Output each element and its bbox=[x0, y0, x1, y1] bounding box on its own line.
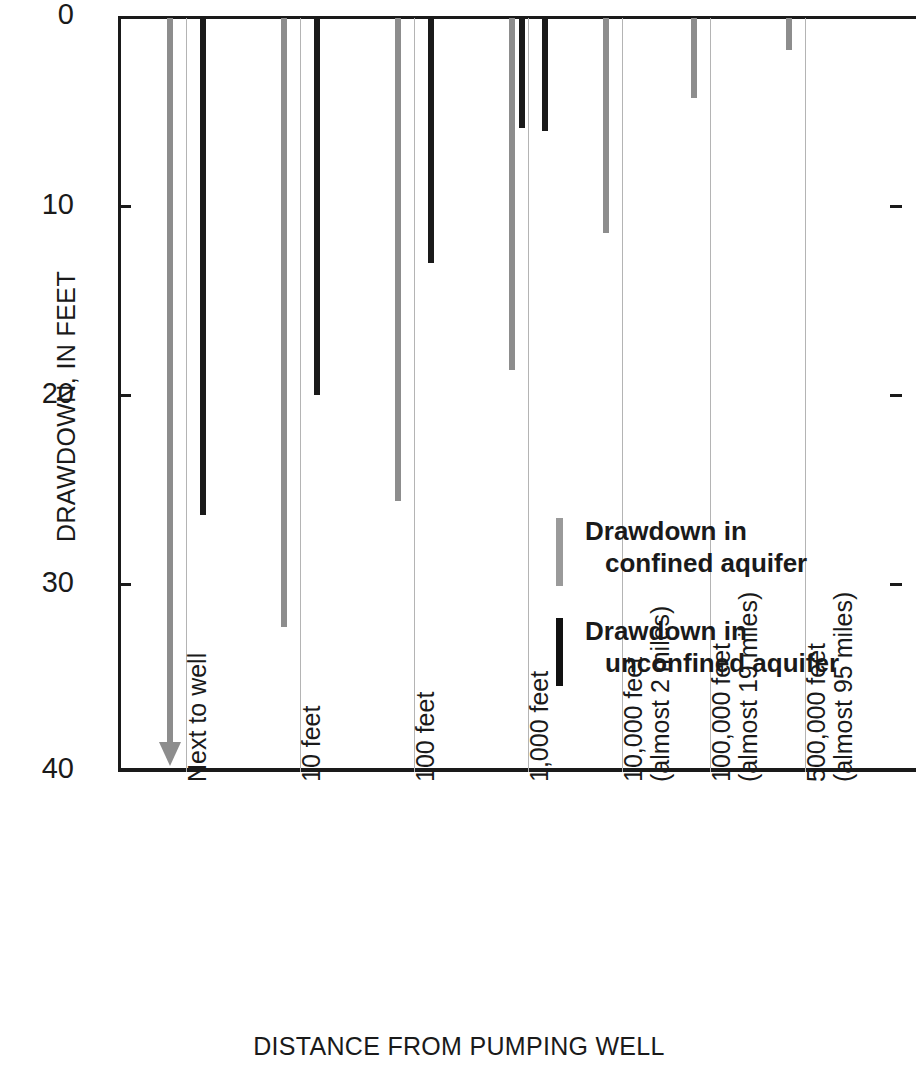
bar-confined-next-to-well bbox=[167, 18, 173, 748]
x-tick-label-10000-feet-sub: (almost 2 miles) bbox=[647, 606, 674, 782]
legend-item-confined: Drawdown in confined aquifer bbox=[556, 516, 896, 586]
x-tick-label-100-feet: 100 feet bbox=[412, 692, 439, 782]
legend-swatch-unconfined-icon bbox=[556, 618, 563, 686]
plot-bottom-axis-line bbox=[118, 768, 916, 772]
bar-confined-1000-feet bbox=[509, 18, 515, 370]
x-tick-label-1000-feet-main: 1,000 feet bbox=[525, 671, 553, 782]
x-tick-label-next-to-well-main: Next to well bbox=[183, 653, 211, 782]
gridline-100-feet bbox=[414, 18, 415, 772]
bar-unconfined-group5 bbox=[519, 18, 525, 128]
bar-unconfined-10-feet bbox=[314, 18, 320, 395]
gridline-1000-feet bbox=[528, 18, 529, 772]
drawdown-chart-figure: DRAWDOWN, IN FEET 0 10 20 30 40 bbox=[0, 0, 918, 1077]
x-tick-label-100000-feet-main: 100,000 feet bbox=[707, 643, 735, 782]
y-tick-label-30: 30 bbox=[4, 568, 74, 597]
bar-confined-500000-feet bbox=[786, 18, 792, 50]
bar-unconfined-1000-feet bbox=[542, 18, 548, 131]
bar-arrow-confined-next-to-well bbox=[159, 742, 181, 766]
x-tick-label-100-feet-main: 100 feet bbox=[411, 692, 439, 782]
legend-label-confined-line2: confined aquifer bbox=[585, 548, 807, 580]
gridline-10-feet bbox=[300, 18, 301, 772]
x-tick-label-500000-feet-main: 500,000 feet bbox=[802, 643, 830, 782]
bar-confined-10-feet bbox=[281, 18, 287, 627]
x-tick-label-1000-feet: 1,000 feet bbox=[526, 671, 553, 782]
legend-swatch-confined-icon bbox=[556, 518, 563, 586]
y-tick-label-20: 20 bbox=[4, 379, 74, 408]
x-tick-label-10000-feet: 10,000 feet (almost 2 miles) bbox=[620, 606, 673, 782]
legend-label-confined-line1: Drawdown in bbox=[585, 516, 747, 546]
plot-top-axis-line bbox=[118, 16, 916, 19]
y-tick-label-10: 10 bbox=[4, 190, 74, 219]
bar-unconfined-100-feet bbox=[428, 18, 434, 263]
x-tick-label-100000-feet: 100,000 feet (almost 19 miles) bbox=[708, 592, 761, 782]
bar-unconfined-next-to-well bbox=[200, 18, 206, 515]
x-tick-label-next-to-well: Next to well bbox=[184, 653, 211, 782]
bar-confined-100-feet bbox=[395, 18, 401, 501]
x-tick-label-10-feet-main: 10 feet bbox=[297, 706, 325, 782]
bar-confined-100000-feet bbox=[691, 18, 697, 98]
x-tick-label-10-feet: 10 feet bbox=[298, 706, 325, 782]
x-tick-label-100000-feet-sub: (almost 19 miles) bbox=[735, 592, 762, 782]
bar-confined-10000-feet bbox=[603, 18, 609, 233]
x-tick-label-500000-feet: 500,000 feet (almost 95 miles) bbox=[803, 592, 856, 782]
x-tick-label-500000-feet-sub: (almost 95 miles) bbox=[830, 592, 857, 782]
x-tick-label-10000-feet-main: 10,000 feet bbox=[619, 657, 647, 782]
legend-label-confined: Drawdown in confined aquifer bbox=[585, 516, 807, 579]
y-tick-label-0: 0 bbox=[4, 0, 74, 29]
y-tick-label-40: 40 bbox=[4, 754, 74, 783]
plot-left-axis-line bbox=[118, 16, 121, 772]
x-axis-title: DISTANCE FROM PUMPING WELL bbox=[0, 1032, 918, 1061]
